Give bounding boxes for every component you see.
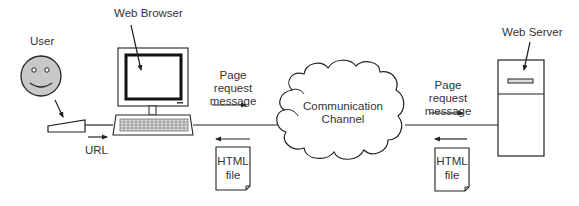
web-request-diagram: User Web Browser URL Page request messag… (0, 0, 579, 206)
web-browser-label: Web Browser (114, 7, 183, 20)
smiley-face-icon (21, 56, 61, 96)
page-request-label-right: Page request message (415, 79, 481, 118)
diagram-canvas (0, 0, 579, 206)
user-arrow (55, 100, 63, 117)
web-server-label: Web Server (502, 26, 563, 39)
input-device-icon (48, 120, 85, 132)
page-request-label-left: Page request message (200, 69, 266, 108)
html-file-label-right: HTML file (434, 154, 470, 182)
url-label: URL (85, 144, 108, 157)
server-tower-icon (498, 60, 544, 156)
user-label: User (30, 35, 54, 48)
channel-label: Communication Channel (296, 100, 390, 126)
desktop-computer-icon (113, 48, 193, 135)
html-file-label-left: HTML file (215, 154, 251, 182)
